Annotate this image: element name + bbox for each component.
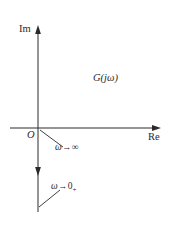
omega-symbol-infinity: ω [55,142,62,152]
arrow-icon-infinity: → [62,142,72,152]
transfer-function-label: G(jω) [93,73,118,84]
annotation-omega-infinity: ω→∞ [55,143,79,153]
arrow-icon-zero: → [58,181,68,191]
transfer-function-suffix: ) [114,72,118,83]
imaginary-axis-direction-arrowhead-down [35,167,41,176]
omega-zero-subscript: + [72,186,76,194]
omega-infinity-value: ∞ [72,142,79,152]
imaginary-axis-arrowhead-up [35,25,41,34]
omega-symbol-zero: ω [51,181,58,191]
imaginary-axis-label: Im [19,24,31,35]
origin-label: O [27,130,35,141]
real-axis-label: Re [148,132,160,143]
nyquist-figure: Im Re O G(jω) ω→∞ ω→0+ [0,0,174,226]
transfer-function-prefix: G(j [93,72,107,83]
annotation-omega-zero-plus: ω→0+ [51,182,76,194]
